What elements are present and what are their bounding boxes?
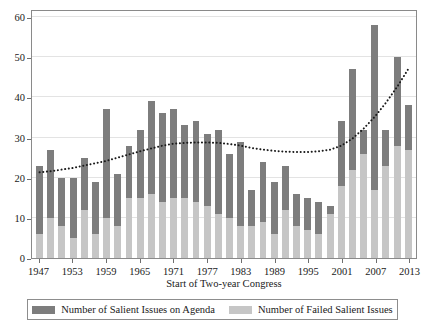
bar-segment-salient xyxy=(47,150,54,218)
bar-slot xyxy=(190,11,201,258)
bar[interactable] xyxy=(92,182,99,258)
bar-slot xyxy=(302,11,313,258)
bar[interactable] xyxy=(181,125,188,258)
bar[interactable] xyxy=(349,69,356,258)
bar[interactable] xyxy=(114,174,121,258)
y-tick-label: 60 xyxy=(15,11,26,24)
bar-segment-failed xyxy=(248,226,255,258)
bar[interactable] xyxy=(260,162,267,258)
bar[interactable] xyxy=(371,25,378,258)
bar[interactable] xyxy=(293,194,300,258)
bar[interactable] xyxy=(282,166,289,258)
bar-segment-failed xyxy=(304,230,311,258)
bar[interactable] xyxy=(382,130,389,259)
bar[interactable] xyxy=(394,57,401,258)
bar-segment-salient xyxy=(237,142,244,226)
bar[interactable] xyxy=(248,190,255,258)
bar-slot xyxy=(112,11,123,258)
bar[interactable] xyxy=(36,166,43,258)
bar[interactable] xyxy=(159,113,166,258)
bar-segment-failed xyxy=(282,210,289,258)
bar[interactable] xyxy=(226,154,233,258)
bar-segment-salient xyxy=(271,182,278,234)
x-tick-mark xyxy=(409,259,410,263)
bar-segment-failed xyxy=(114,226,121,258)
bar-slot xyxy=(324,11,335,258)
bar-segment-salient xyxy=(260,162,267,222)
bar-segment-salient xyxy=(248,190,255,226)
bar[interactable] xyxy=(315,202,322,258)
bar-segment-failed xyxy=(226,218,233,258)
bar-segment-salient xyxy=(349,69,356,169)
bar-segment-salient xyxy=(81,158,88,210)
bar[interactable] xyxy=(47,150,54,258)
bar-segment-failed xyxy=(193,202,200,258)
bar[interactable] xyxy=(103,109,110,258)
bar-segment-salient xyxy=(36,166,43,234)
bar-segment-salient xyxy=(215,130,222,214)
x-tick-label: 1959 xyxy=(96,265,117,278)
bar-segment-salient xyxy=(405,105,412,149)
bar-segment-salient xyxy=(293,194,300,226)
bar[interactable] xyxy=(70,178,77,258)
bar[interactable] xyxy=(58,178,65,258)
bar-slot xyxy=(34,11,45,258)
x-tick-label: 2007 xyxy=(365,265,386,278)
x-tick-mark xyxy=(207,259,208,263)
bar-segment-failed xyxy=(293,226,300,258)
bar[interactable] xyxy=(327,206,334,258)
bar-slot xyxy=(157,11,168,258)
bar-segment-failed xyxy=(204,206,211,258)
bar-slot xyxy=(291,11,302,258)
bar-segment-failed xyxy=(103,218,110,258)
bar[interactable] xyxy=(170,109,177,258)
bar[interactable] xyxy=(237,142,244,258)
bar-segment-salient xyxy=(148,101,155,193)
x-tick-mark xyxy=(140,259,141,263)
y-tick-label: 30 xyxy=(15,132,26,145)
x-tick-label: 1995 xyxy=(298,265,319,278)
bar-slot xyxy=(369,11,380,258)
bar-segment-salient xyxy=(382,130,389,166)
bar-slot xyxy=(392,11,403,258)
bar-slot xyxy=(257,11,268,258)
bar[interactable] xyxy=(215,130,222,259)
x-tick-mark xyxy=(308,259,309,263)
bar-segment-salient xyxy=(394,57,401,145)
bar-slot xyxy=(313,11,324,258)
x-tick-mark xyxy=(241,259,242,263)
bar[interactable] xyxy=(148,101,155,258)
bar[interactable] xyxy=(304,198,311,258)
bar[interactable] xyxy=(338,121,345,258)
bar[interactable] xyxy=(204,134,211,258)
y-axis: 0102030405060 xyxy=(0,10,31,259)
y-tick-label: 50 xyxy=(15,51,26,64)
bar-segment-salient xyxy=(315,202,322,234)
bar[interactable] xyxy=(193,121,200,258)
legend: Number of Salient Issues on Agenda Numbe… xyxy=(27,299,398,320)
bar-segment-failed xyxy=(137,198,144,258)
x-tick-label: 2013 xyxy=(399,265,420,278)
bar-slot xyxy=(269,11,280,258)
bar[interactable] xyxy=(81,158,88,258)
x-tick-mark xyxy=(72,259,73,263)
bar[interactable] xyxy=(137,130,144,259)
bar[interactable] xyxy=(126,146,133,258)
bar-segment-salient xyxy=(126,146,133,198)
x-tick-label: 1965 xyxy=(129,265,150,278)
bar-slot xyxy=(380,11,391,258)
bar-segment-salient xyxy=(137,130,144,198)
bar-segment-failed xyxy=(371,190,378,258)
bar-slot xyxy=(246,11,257,258)
bar-slot xyxy=(135,11,146,258)
bar-slot xyxy=(179,11,190,258)
bar-slot xyxy=(168,11,179,258)
x-tick-label: 1971 xyxy=(163,265,184,278)
bar[interactable] xyxy=(271,182,278,258)
bar-segment-salient xyxy=(58,178,65,226)
bar-segment-salient xyxy=(204,134,211,206)
bar-segment-failed xyxy=(47,218,54,258)
x-axis-title: Start of Two-year Congress xyxy=(31,278,417,289)
bar[interactable] xyxy=(360,130,367,259)
bar[interactable] xyxy=(405,105,412,258)
